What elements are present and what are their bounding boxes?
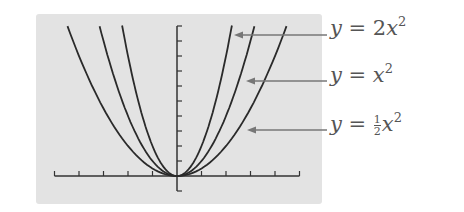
arrow-head-icon: [246, 78, 255, 85]
arrow-head-icon: [234, 32, 243, 39]
label-x2: y = x2: [330, 61, 393, 87]
label-half-x2: y = 12x2: [330, 110, 402, 137]
label-2x2: y = 2x2: [330, 14, 406, 40]
fraction-one-half: 12: [374, 114, 381, 137]
arrow-head-icon: [247, 127, 256, 134]
